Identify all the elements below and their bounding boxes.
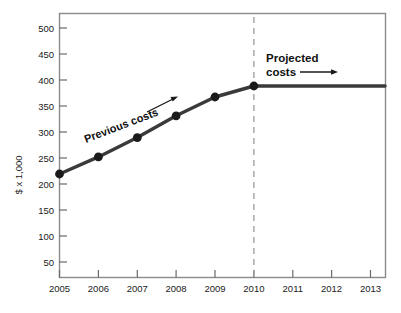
x-tick-label: 2009 (204, 283, 225, 294)
data-point-2009 (211, 93, 220, 102)
x-tick-label: 2013 (360, 283, 381, 294)
x-tick-label: 2011 (283, 283, 303, 294)
y-axis-title: $ x 1,000 (13, 155, 24, 194)
data-point-2006 (94, 153, 103, 162)
data-point-2008 (172, 111, 181, 120)
x-axis-ticks (60, 270, 371, 278)
x-tick-label: 2005 (49, 283, 70, 294)
x-tick-label: 2010 (243, 283, 264, 294)
y-axis-tick-labels: 500 450 400 350 300 250 200 150 100 50 (38, 23, 54, 268)
previous-costs-line (60, 86, 254, 174)
cost-projection-chart: 500 450 400 350 300 250 200 150 100 50 $… (0, 0, 401, 313)
y-tick-label: 150 (38, 205, 54, 216)
data-point-2007 (133, 133, 142, 142)
data-point-2010 (250, 82, 259, 91)
projected-costs-label-line1: Projected (266, 52, 318, 64)
x-axis-tick-labels: 2005 2006 2007 2008 2009 2010 2011 2012 … (49, 283, 381, 294)
y-tick-label: 400 (38, 75, 54, 86)
y-tick-label: 100 (38, 231, 54, 242)
x-tick-label: 2008 (166, 283, 187, 294)
chart-canvas: 500 450 400 350 300 250 200 150 100 50 $… (0, 0, 401, 313)
y-tick-label: 300 (38, 127, 54, 138)
y-tick-label: 250 (38, 153, 54, 164)
y-axis-ticks (60, 28, 68, 262)
projected-costs-label-line2: costs (266, 66, 296, 78)
y-tick-label: 500 (38, 23, 54, 34)
x-tick-label: 2012 (321, 283, 342, 294)
data-point-2005 (55, 170, 64, 179)
y-tick-label: 350 (38, 101, 54, 112)
y-tick-label: 450 (38, 49, 54, 60)
previous-costs-arrow-icon (147, 97, 178, 113)
x-tick-label: 2006 (88, 283, 109, 294)
x-tick-label: 2007 (127, 283, 148, 294)
y-tick-label: 200 (38, 179, 54, 190)
projected-costs-arrow-icon (300, 69, 338, 75)
plot-frame (60, 14, 386, 278)
y-tick-label: 50 (43, 257, 54, 268)
